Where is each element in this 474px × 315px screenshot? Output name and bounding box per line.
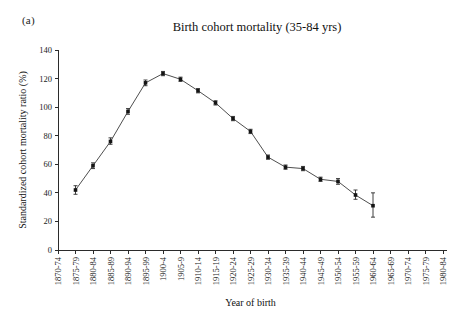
data-marker [91,164,95,168]
data-marker [336,180,340,184]
data-marker [301,167,305,171]
x-tick-label: 1930-34 [263,256,273,285]
x-tick-label: 1970-74 [403,256,413,285]
x-tick-label: 1890-94 [123,256,133,285]
data-marker [319,177,323,181]
y-axis-title: Standardized cohort mortality ratio (%) [17,71,29,229]
x-tick-label: 1910-14 [193,256,203,285]
y-tick-label: 100 [39,102,52,112]
data-point [371,193,375,217]
data-point [284,165,288,169]
x-tick-label: 1960-64 [368,256,378,285]
y-tick-label: 60 [44,159,53,169]
data-point [74,186,78,195]
x-tick-label: 1870-74 [53,256,63,285]
data-marker [266,155,270,159]
data-series [74,71,376,217]
y-tick-label: 140 [39,45,52,55]
x-tick-label: 1935-39 [281,257,291,285]
data-marker [371,204,375,208]
data-point [336,179,340,185]
data-point [301,166,305,170]
x-tick-label: 1940-44 [298,256,308,285]
x-tick-label: 1925-29 [246,257,256,285]
data-marker [109,140,113,144]
x-axis: 1870-741875-791880-841885-891890-941895-… [53,250,448,285]
data-marker [179,77,183,81]
data-marker [196,89,200,93]
x-tick-label: 1975-79 [421,257,431,285]
line-chart-plot: 020406080100120140 1870-741875-791880-84… [0,0,474,315]
data-point [231,116,235,120]
data-point [196,89,200,93]
x-tick-label: 1905-9 [176,257,186,281]
x-tick-label: 1950-54 [333,256,343,285]
data-marker [161,72,165,76]
data-point [161,71,165,75]
x-tick-label: 1895-99 [141,257,151,285]
data-marker [284,165,288,169]
x-tick-label: 1915-19 [211,257,221,285]
data-marker [231,117,235,121]
y-tick-label: 120 [39,74,52,84]
data-marker [214,101,218,105]
x-tick-label: 1980-84 [438,256,448,285]
data-point [354,190,358,199]
x-tick-label: 1965-69 [386,257,396,285]
data-point [179,77,183,81]
y-tick-label: 40 [44,188,53,198]
data-point [319,177,323,181]
x-tick-label: 1885-89 [106,257,116,285]
data-point [214,101,218,105]
x-tick-label: 1900-4 [158,256,168,281]
data-marker [144,81,148,85]
data-marker [354,193,358,197]
x-tick-label: 1875-79 [71,257,81,285]
x-tick-label: 1920-24 [228,256,238,285]
data-point [266,155,270,159]
x-tick-label: 1945-49 [316,257,326,285]
y-tick-label: 0 [48,245,52,255]
data-marker [126,110,130,114]
x-tick-label: 1880-84 [88,256,98,285]
x-axis-title: Year of birth [225,297,276,308]
y-axis: 020406080100120140 [39,45,58,255]
figure-panel: (a) Birth cohort mortality (35-84 yrs) 0… [0,0,474,315]
data-marker [249,130,253,134]
y-tick-label: 20 [44,216,53,226]
series-line [76,74,374,206]
y-tick-label: 80 [44,131,53,141]
data-point [249,129,253,133]
data-marker [74,188,78,192]
x-tick-label: 1955-59 [351,257,361,285]
